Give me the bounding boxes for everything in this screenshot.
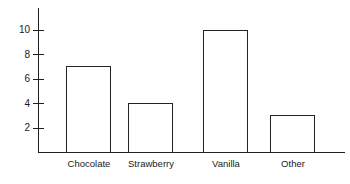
x-axis-label-vanilla: Vanilla: [196, 158, 256, 169]
y-tick-label-4: 4: [8, 99, 30, 109]
bar-chocolate[interactable]: [66, 66, 111, 153]
y-tick-mark-10: [33, 30, 44, 31]
y-tick-mark-2: [33, 128, 44, 129]
y-tick-mark-4: [33, 103, 44, 104]
bar-vanilla[interactable]: [203, 30, 248, 154]
bar-chart-figure: 2 4 6 8 10 Chocolate Strawberry Vanilla …: [0, 0, 350, 184]
y-tick-label-8: 8: [8, 50, 30, 60]
y-tick-label-6: 6: [8, 74, 30, 84]
y-tick-label-2: 2: [8, 123, 30, 133]
bar-other[interactable]: [270, 115, 315, 153]
x-axis-label-other: Other: [268, 158, 318, 169]
plot-area: 2 4 6 8 10 Chocolate Strawberry Vanilla …: [0, 0, 350, 184]
x-axis-label-strawberry: Strawberry: [118, 158, 184, 169]
y-tick-label-10: 10: [8, 25, 30, 35]
y-tick-mark-6: [33, 79, 44, 80]
bar-strawberry[interactable]: [128, 103, 173, 153]
x-axis-label-chocolate: Chocolate: [58, 158, 120, 169]
y-tick-mark-8: [33, 54, 44, 55]
